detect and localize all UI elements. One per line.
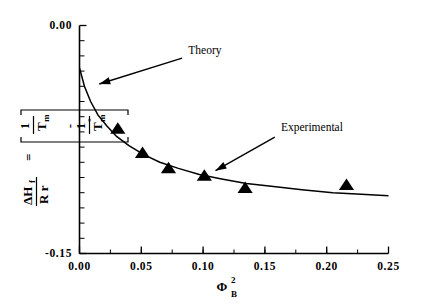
y-axis-title: ΔH f R r = 1 T m - [17,110,128,206]
x-axis-title-subscript: B [231,289,237,299]
term-one-over-tm-zero: 1 T m ° [73,114,107,134]
x-tick-label: 0.05 [130,260,153,272]
x-tick-label: 0.00 [68,260,91,272]
plot-axes [80,26,389,254]
x-axis-tick-labels: 0.000.050.100.150.200.25 [68,260,400,272]
chart-annotations: TheoryExperimental [99,44,343,171]
x-tick-label: 0.25 [377,260,400,272]
y-axis-title-bracket-group: 1 T m - 1 T m ° [17,110,128,142]
y-axis-minor-ticks [80,26,87,254]
annotation-arrowhead [99,77,111,84]
y-axis-title-fraction: ΔH f R r [20,177,51,206]
annotation-label: Theory [188,44,221,57]
data-point-marker [135,147,150,159]
term2-denominator: T [90,122,105,131]
y-axis-title-numerator-subscript: f [27,179,37,183]
term2-denominator-superscript: ° [86,118,96,122]
x-axis-title: Φ B 2 [217,275,237,299]
term1-denominator: T [34,122,49,131]
y-axis-title-denominator: R r [36,185,51,204]
annotation-arrowhead [215,162,226,171]
bracket-close [21,110,128,115]
term2-numerator: 1 [73,123,88,130]
term-one-over-tm: 1 T m [17,114,51,134]
data-point-marker [339,178,354,190]
term1-denominator-subscript: m [41,114,51,122]
y-axis-title-equals: = [21,154,36,161]
x-axis-title-base: Φ [217,279,228,294]
term1-numerator: 1 [17,123,32,130]
bracket-open [21,137,128,142]
x-tick-label: 0.10 [192,260,215,272]
y-tick-label-top: 0.00 [49,19,72,31]
y-tick-label-bottom: -0.15 [45,247,72,259]
data-point-marker [110,122,125,134]
x-tick-label: 0.15 [254,260,277,272]
x-axis-title-superscript: 2 [231,275,236,285]
annotation-label: Experimental [281,121,343,134]
x-tick-label: 0.20 [315,260,338,272]
y-axis-title-numerator: ΔH [20,187,35,205]
data-point-marker [238,181,253,193]
annotation-arrow-line [99,58,182,84]
chart-figure: TheoryExperimental 0.000.050.100.150.200… [0,0,421,306]
scatter-plot-svg: TheoryExperimental 0.000.050.100.150.200… [0,0,421,306]
term2-denominator-subscript: m [97,114,107,122]
